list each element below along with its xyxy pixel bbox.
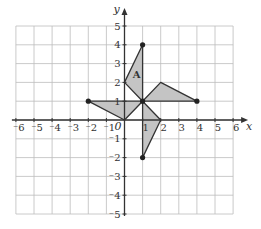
shape-right <box>143 82 197 101</box>
origin-label: 0 <box>115 120 122 133</box>
y-tick-label: ⁻2 <box>109 152 121 163</box>
y-axis-arrow-icon <box>122 8 128 15</box>
y-tick-label: 2 <box>114 77 120 88</box>
x-tick-label: 2 <box>161 122 167 133</box>
coordinate-plane: A ⁻6⁻5⁻4⁻3⁻2⁻1123456⁻5⁻4⁻3⁻2⁻1123450xy <box>0 0 261 229</box>
coordinate-grid-figure: A ⁻6⁻5⁻4⁻3⁻2⁻1123456⁻5⁻4⁻3⁻2⁻1123450xy <box>0 0 261 229</box>
vertex-point <box>140 42 145 47</box>
shapes: A <box>86 42 200 160</box>
x-tick-label: ⁻6 <box>13 122 25 133</box>
y-tick-label: 4 <box>114 39 120 50</box>
x-tick-label: 5 <box>215 122 221 133</box>
x-axis-name: x <box>246 120 253 133</box>
y-tick-label: 1 <box>114 96 120 107</box>
vertex-point <box>140 155 145 160</box>
vertex-point <box>86 99 91 104</box>
x-tick-label: 1 <box>142 122 148 133</box>
x-tick-label: 4 <box>197 122 203 133</box>
y-tick-label: 3 <box>114 58 120 69</box>
y-tick-label: ⁻4 <box>109 190 121 201</box>
y-axis-name: y <box>113 3 121 16</box>
x-tick-label: 6 <box>233 122 239 133</box>
x-tick-label: ⁻2 <box>85 122 97 133</box>
shape-label-A: A <box>132 69 141 80</box>
x-tick-label: ⁻1 <box>104 122 116 133</box>
y-tick-label: ⁻5 <box>109 209 121 220</box>
y-tick-label: 5 <box>114 21 120 32</box>
x-tick-label: ⁻3 <box>67 122 79 133</box>
y-tick-label: ⁻3 <box>109 171 121 182</box>
y-tick-label: ⁻1 <box>109 133 121 144</box>
vertex-point <box>194 99 199 104</box>
x-tick-label: ⁻5 <box>31 122 43 133</box>
x-tick-label: 3 <box>179 122 185 133</box>
x-tick-label: ⁻4 <box>49 122 61 133</box>
center-point <box>140 99 145 104</box>
